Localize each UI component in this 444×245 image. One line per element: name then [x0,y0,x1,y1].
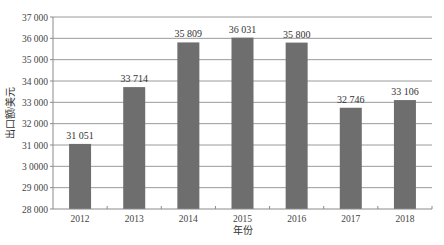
x-tick-label: 2018 [395,214,414,224]
x-axis-title: 年份 [233,224,253,236]
bar-chart: 28 00029 0003 000031 00032 00033 00034 0… [0,0,444,245]
x-tick-label: 2014 [179,214,198,224]
y-tick-label: 36 000 [22,34,48,44]
y-tick-label: 33 000 [22,98,48,108]
x-tick-label: 2013 [125,214,144,224]
bar-2018 [394,100,416,209]
value-label: 33 106 [391,86,419,97]
value-label: 32 746 [337,94,365,105]
value-label: 31 051 [66,130,94,141]
x-tick-label: 2017 [341,214,360,224]
bar-2013 [123,87,145,209]
y-tick-label: 31 000 [22,141,48,151]
x-tick-label: 2015 [233,214,252,224]
y-tick-label: 29 000 [22,183,48,193]
y-tick-label: 34 000 [22,77,48,87]
bar-2014 [177,42,199,209]
x-tick-label: 2012 [71,214,90,224]
y-tick-label: 35 000 [22,55,48,65]
y-tick-label: 28 000 [22,205,48,215]
y-axis-title: 出口额/美元 [4,87,16,140]
value-label: 33 714 [120,73,148,84]
bar-2016 [286,43,308,209]
value-label: 36 031 [229,24,257,35]
y-tick-label: 3 0000 [22,162,48,172]
value-label: 35 800 [283,29,311,40]
bar-2017 [340,108,362,209]
bars: 31 05133 71435 80936 03135 80032 74633 1… [66,24,418,209]
bar-2015 [232,38,254,209]
y-tick-label: 37 000 [22,13,48,23]
value-label: 35 809 [175,28,203,39]
y-axis-ticks: 28 00029 0003 000031 00032 00033 00034 0… [22,13,53,215]
bar-2012 [69,144,91,209]
x-tick-label: 2016 [287,214,306,224]
y-tick-label: 32 000 [22,119,48,129]
